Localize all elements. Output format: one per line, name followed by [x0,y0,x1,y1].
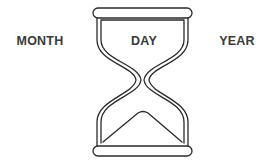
year-label: YEAR [219,35,255,48]
month-label: MONTH [17,35,64,48]
day-label: DAY [131,35,157,48]
hourglass-icon [0,0,258,160]
